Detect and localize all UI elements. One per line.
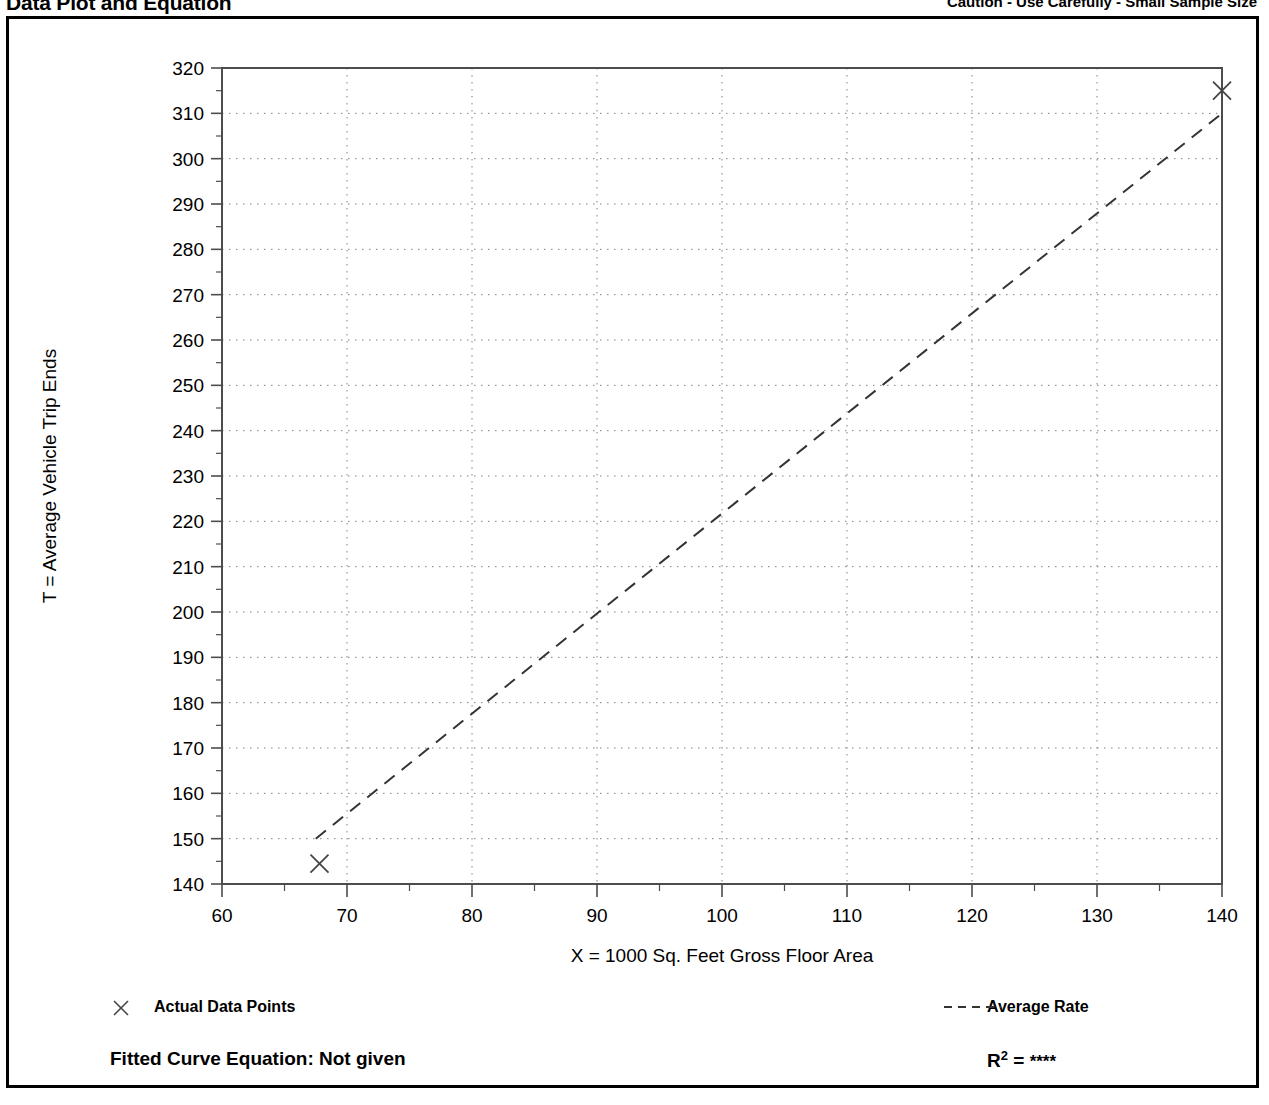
- legend-label-actual-data-points: Actual Data Points: [154, 998, 295, 1016]
- fitted-curve-equation: Fitted Curve Equation: Not given: [110, 1048, 406, 1070]
- x-cross-marker-icon: [110, 998, 140, 1016]
- chart-footer: Fitted Curve Equation: Not given R2 = **…: [0, 1048, 1269, 1082]
- legend-item-actual-data-points: Actual Data Points: [110, 998, 295, 1016]
- x-tick-label: 140: [1206, 905, 1238, 926]
- y-tick-label: 280: [172, 239, 204, 260]
- y-tick-label: 150: [172, 829, 204, 850]
- x-axis-title: X = 1000 Sq. Feet Gross Floor Area: [222, 945, 1222, 967]
- y-tick-label: 290: [172, 194, 204, 215]
- x-tick-label: 130: [1081, 905, 1113, 926]
- r-squared-stars: ****: [1030, 1052, 1056, 1071]
- r-squared-symbol: R: [987, 1050, 1001, 1071]
- y-tick-label: 270: [172, 285, 204, 306]
- scatter-plot-svg: 1401501601701801902002102202302402502602…: [0, 0, 1269, 1105]
- y-tick-label: 140: [172, 874, 204, 895]
- chart-plot-region: 1401501601701801902002102202302402502602…: [0, 0, 1269, 1105]
- x-tick-label: 60: [211, 905, 232, 926]
- x-tick-label: 70: [336, 905, 357, 926]
- x-tick-label: 120: [956, 905, 988, 926]
- y-axis-title: T = Average Vehicle Trip Ends: [39, 266, 61, 686]
- average-rate-trend-line: [316, 113, 1222, 838]
- y-tick-label: 320: [172, 58, 204, 79]
- y-tick-label: 230: [172, 466, 204, 487]
- y-tick-label: 220: [172, 511, 204, 532]
- y-tick-label: 210: [172, 557, 204, 578]
- y-tick-label: 310: [172, 103, 204, 124]
- r-squared-value: R2 = ****: [987, 1048, 1056, 1072]
- y-tick-label: 180: [172, 693, 204, 714]
- grid-lines: [222, 68, 1222, 884]
- data-point-x-marker: [311, 855, 329, 873]
- r-squared-equals-sign: =: [1008, 1050, 1030, 1071]
- dashed-line-icon: [943, 998, 973, 1016]
- y-tick-label: 240: [172, 421, 204, 442]
- x-tick-label: 110: [832, 905, 862, 926]
- x-tick-label: 80: [461, 905, 482, 926]
- x-tick-label: 100: [706, 905, 738, 926]
- y-tick-label: 190: [172, 647, 204, 668]
- legend-item-average-rate: Average Rate: [943, 998, 1089, 1016]
- y-tick-label: 200: [172, 602, 204, 623]
- series-actual-data-points: [311, 82, 1232, 873]
- y-tick-label: 300: [172, 149, 204, 170]
- y-tick-label: 160: [172, 783, 204, 804]
- axis-ticks: 1401501601701801902002102202302402502602…: [172, 58, 1238, 926]
- chart-legend: Actual Data Points Average Rate: [0, 998, 1269, 1028]
- x-tick-label: 90: [586, 905, 607, 926]
- y-tick-label: 260: [172, 330, 204, 351]
- series-average-rate-line: [316, 113, 1222, 838]
- y-tick-label: 170: [172, 738, 204, 759]
- y-tick-label: 250: [172, 375, 204, 396]
- r-squared-exponent: 2: [1001, 1048, 1008, 1063]
